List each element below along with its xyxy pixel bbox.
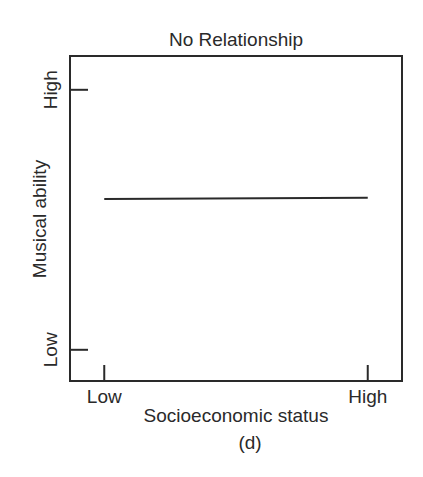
y-tick-label: High (40, 70, 61, 109)
figure-caption: (d) (238, 432, 261, 453)
x-tick-label: Low (87, 386, 122, 407)
x-axis-label: Socioeconomic status (144, 405, 329, 426)
chart: No Relationship LowHigh LowHigh Socioeco… (0, 0, 423, 477)
y-tick-label: Low (40, 332, 61, 367)
chart-title: No Relationship (169, 29, 303, 50)
plot-frame (70, 56, 402, 381)
y-axis-label: Musical ability (29, 159, 50, 278)
series-line-relationship (104, 198, 367, 199)
x-tick-label: High (348, 386, 387, 407)
